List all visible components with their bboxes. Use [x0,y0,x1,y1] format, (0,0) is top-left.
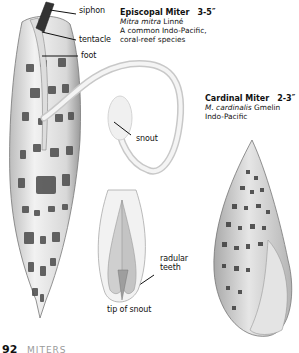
species-note: Indo-Pacific [205,112,295,121]
label-tentacle: tentacle [79,35,111,44]
species-note: A common Indo-Pacific, [120,26,216,35]
species-size: 2-3″ [277,94,295,103]
scientific-name: Mitra mitra [120,17,161,26]
species-author: Linné [163,17,183,26]
section-header: MITERS [27,345,67,353]
label-snout: snout [136,134,158,143]
illustration-layer [0,0,299,353]
label-radular: radular [160,254,188,263]
label-tip-of-snout: tip of snout [107,305,151,314]
caption-cardinal-miter: Cardinal Miter2-3″ M. cardinalis Gmelin … [205,94,295,121]
cardinal-miter-illustration [214,140,292,336]
species-name: Cardinal Miter [205,94,269,103]
episcopal-miter-illustration [10,2,181,318]
tip-of-snout-illustration [98,190,145,302]
page-number: 92 [2,343,17,353]
label-siphon: siphon [79,6,105,15]
species-note: coral-reef species [120,35,216,44]
species-size: 3-5″ [197,8,215,17]
species-name: Episcopal Miter [120,8,189,17]
scientific-name: M. cardinalis [205,103,252,112]
caption-episcopal-miter: Episcopal Miter3-5″ Mitra mitra Linné A … [120,8,216,44]
label-foot: foot [81,51,96,60]
label-teeth: teeth [160,263,181,272]
species-author: Gmelin [254,103,280,112]
